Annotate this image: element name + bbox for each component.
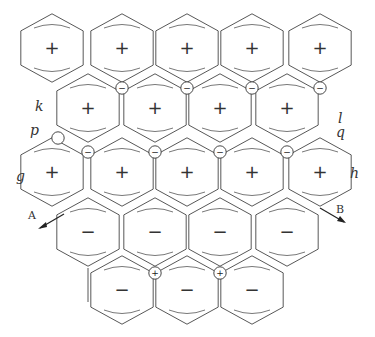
wheel-sign: − bbox=[216, 147, 224, 157]
label-p: p bbox=[30, 122, 39, 138]
vortex-sign: − bbox=[179, 279, 194, 300]
vortex-sign: − bbox=[114, 279, 129, 300]
vortex-sign: + bbox=[44, 37, 59, 58]
label-h: h bbox=[350, 165, 359, 181]
wheel-sign: + bbox=[151, 268, 159, 278]
label-A: A bbox=[28, 209, 36, 222]
wheel-sign: − bbox=[183, 83, 191, 93]
vortex-sign: + bbox=[312, 161, 327, 182]
label-q: q bbox=[336, 124, 345, 140]
label-B: B bbox=[336, 203, 344, 216]
label-k: k bbox=[35, 98, 43, 114]
vortex-sign: − bbox=[212, 221, 227, 242]
wheel-sign: − bbox=[118, 83, 126, 93]
vortex-sign: − bbox=[244, 279, 259, 300]
vortex-sign: + bbox=[312, 37, 327, 58]
vortex-sign: − bbox=[147, 221, 162, 242]
vortex-sign: + bbox=[279, 97, 294, 118]
vortex-sign: − bbox=[80, 221, 95, 242]
vortex-sign: + bbox=[147, 97, 162, 118]
vortex-cells: ++++++++++++++−−−−−−− bbox=[21, 14, 351, 324]
vortex-sign: + bbox=[114, 37, 129, 58]
vortex-sign: + bbox=[114, 161, 129, 182]
wheel-sign: − bbox=[151, 147, 159, 157]
arrow-A-head-icon bbox=[38, 222, 47, 229]
vortex-sign: + bbox=[179, 37, 194, 58]
vortex-sign: + bbox=[244, 161, 259, 182]
vortex-diagram: ++++++++++++++−−−−−−− −−−−−−−−++ bbox=[0, 0, 375, 337]
vortex-sign: + bbox=[212, 97, 227, 118]
vortex-sign: + bbox=[44, 161, 59, 182]
vortex-sign: + bbox=[244, 37, 259, 58]
vortex-sign: − bbox=[279, 221, 294, 242]
wheel-sign: − bbox=[84, 147, 92, 157]
wheel-sign: − bbox=[248, 83, 256, 93]
vortex-sign: + bbox=[80, 97, 95, 118]
arrow-B-head-icon bbox=[337, 216, 346, 223]
label-g: g bbox=[16, 168, 25, 184]
wheel-sign: + bbox=[216, 268, 224, 278]
wheel-sign: − bbox=[316, 83, 324, 93]
vortex-sign: + bbox=[179, 161, 194, 182]
idle-wheel-p bbox=[52, 132, 64, 144]
wheel-sign: − bbox=[283, 147, 291, 157]
